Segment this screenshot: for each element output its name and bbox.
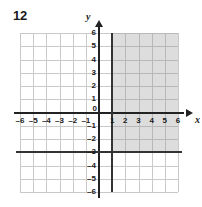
y-tick-label: 6 <box>86 29 96 37</box>
y-tick-label: –5 <box>86 175 96 183</box>
y-tick-label: 1 <box>86 95 96 103</box>
solution-region-shading <box>112 33 178 152</box>
horizontal-boundary-line <box>16 151 182 153</box>
y-tick-label: 2 <box>86 82 96 90</box>
x-axis-label: x <box>195 114 200 125</box>
x-tick-label: 3 <box>136 117 140 125</box>
vertical-boundary-line <box>111 33 113 192</box>
y-tick-label: –3 <box>86 148 96 156</box>
x-tick-label: –4 <box>42 117 51 125</box>
x-tick-label: –3 <box>55 117 64 125</box>
y-tick-label: –2 <box>86 135 96 143</box>
x-tick-label: 6 <box>176 117 180 125</box>
y-tick-label: –1 <box>86 122 96 130</box>
y-tick-label: –4 <box>86 162 96 170</box>
x-tick-label: 1 <box>110 117 114 125</box>
problem-number: 12 <box>13 8 27 23</box>
x-tick-label: 5 <box>163 117 167 125</box>
y-tick-label: 4 <box>86 56 96 64</box>
coordinate-graph: –6–5–4–3–2–1123456654321–1–2–3–4–5–60 x … <box>20 33 178 192</box>
x-tick-label: –6 <box>16 117 25 125</box>
y-axis-arrow-icon <box>95 20 103 27</box>
y-tick-label: 5 <box>86 42 96 50</box>
y-tick-label: 3 <box>86 69 96 77</box>
x-tick-label: 2 <box>123 117 127 125</box>
x-tick-label: –2 <box>68 117 77 125</box>
x-axis-arrow-icon <box>186 109 193 117</box>
x-tick-label: 4 <box>149 117 153 125</box>
y-tick-label: –6 <box>86 188 96 196</box>
x-tick-label: –5 <box>29 117 38 125</box>
origin-label: 0 <box>89 105 97 113</box>
y-axis <box>98 27 100 198</box>
y-axis-label: y <box>86 11 90 22</box>
